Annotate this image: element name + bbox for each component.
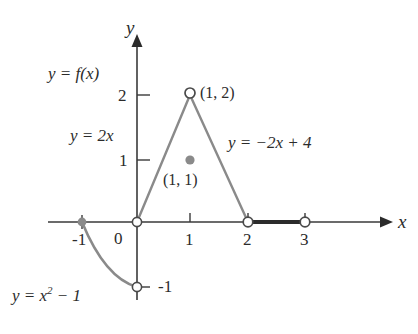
- rising-line-label: y = 2x: [70, 127, 114, 144]
- x-axis-label: x: [398, 212, 406, 231]
- y-tick-label-neg1: -1: [158, 278, 172, 295]
- marker-open-0-neg1: [132, 282, 141, 291]
- x-tick-label-2: 2: [243, 231, 252, 248]
- x-tick-label-0: 0: [114, 230, 123, 247]
- parabola-curve: [82, 222, 137, 287]
- x-tick-label-1: 1: [185, 231, 194, 248]
- x-tick-label-neg1: -1: [72, 231, 86, 248]
- value-point-label: (1, 1): [163, 172, 198, 188]
- function-graph-figure: y x -1 0 1 2 3 2 1 -1 y = f(x) y = 2x y …: [0, 0, 418, 334]
- marker-open-2-0: [243, 217, 253, 227]
- y-tick-label-1: 1: [119, 152, 128, 169]
- falling-line-segment: [190, 95, 248, 222]
- marker-filled-neg1-0: [78, 218, 87, 227]
- rising-line-segment: [137, 95, 190, 222]
- parabola-label: y = x2 − 1: [12, 285, 81, 304]
- parabola-label-suffix: − 1: [53, 286, 81, 305]
- y-tick-label-2: 2: [118, 87, 127, 104]
- function-label: y = f(x): [48, 65, 99, 82]
- marker-open-origin: [132, 217, 141, 226]
- marker-open-1-2: [185, 88, 195, 98]
- marker-open-3-0: [300, 217, 310, 227]
- x-axis-arrowhead: [380, 217, 393, 228]
- x-tick-label-3: 3: [300, 231, 309, 248]
- y-axis-label: y: [126, 18, 134, 37]
- peak-point-label: (1, 2): [200, 85, 235, 101]
- marker-filled-1-1: [185, 155, 194, 164]
- falling-line-label: y = −2x + 4: [228, 134, 312, 151]
- parabola-label-prefix: y = x: [12, 286, 47, 305]
- graph-canvas: [0, 0, 418, 334]
